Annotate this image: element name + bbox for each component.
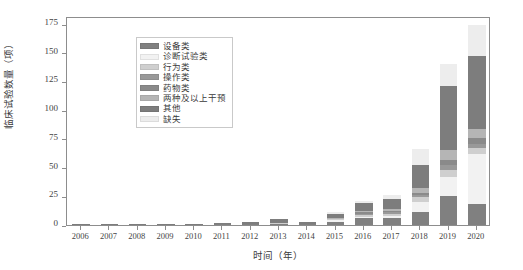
- y-tick-label: 100: [45, 104, 59, 113]
- bar-segment[interactable]: [214, 224, 232, 225]
- x-tick-mark: [193, 226, 194, 230]
- y-tick-label: 75: [49, 133, 58, 142]
- legend-item[interactable]: 操作类: [140, 72, 226, 82]
- bar-segment[interactable]: [412, 165, 430, 188]
- bar-segment[interactable]: [440, 64, 458, 86]
- legend-swatch-icon: [140, 54, 159, 60]
- y-axis: 0255075100125150175 临床试验数量（项）: [0, 17, 66, 226]
- bar-group[interactable]: [270, 219, 288, 225]
- bar-group[interactable]: [468, 25, 486, 225]
- x-axis: 2006200720082009201020112012201320142015…: [66, 226, 490, 266]
- legend: 设备类诊断试验类行为类操作类药物类两种及以上干预其他缺失: [136, 37, 233, 128]
- x-tick-mark: [80, 226, 81, 230]
- bar-group[interactable]: [299, 222, 317, 225]
- bar-segment[interactable]: [157, 224, 175, 225]
- y-tick-label: 25: [49, 190, 58, 199]
- x-tick-mark: [250, 226, 251, 230]
- bar-group[interactable]: [72, 224, 90, 225]
- bar-segment[interactable]: [468, 204, 486, 225]
- x-tick-label: 2015: [326, 232, 343, 241]
- y-tick-label: 175: [45, 18, 59, 27]
- x-tick-mark: [165, 226, 166, 230]
- x-tick-mark: [108, 226, 109, 230]
- x-tick-label: 2008: [128, 232, 145, 241]
- bar-segment[interactable]: [468, 25, 486, 56]
- x-tick-label: 2006: [72, 232, 89, 241]
- y-tick-label: 0: [54, 219, 59, 228]
- bar-group[interactable]: [440, 64, 458, 225]
- bar-group[interactable]: [327, 212, 345, 225]
- bar-segment[interactable]: [440, 86, 458, 150]
- x-tick-label: 2018: [411, 232, 428, 241]
- legend-item[interactable]: 药物类: [140, 83, 226, 93]
- x-tick-mark: [278, 226, 279, 230]
- bar-group[interactable]: [242, 222, 260, 225]
- legend-item-label: 操作类: [163, 73, 190, 82]
- bar-group[interactable]: [157, 224, 175, 225]
- bar-group[interactable]: [214, 223, 232, 225]
- bar-segment[interactable]: [440, 196, 458, 225]
- legend-swatch-icon: [140, 74, 159, 80]
- x-tick-label: 2013: [270, 232, 287, 241]
- x-tick-label: 2011: [213, 232, 230, 241]
- legend-item-label: 行为类: [163, 63, 190, 72]
- bar-segment[interactable]: [101, 224, 119, 225]
- bar-segment[interactable]: [468, 56, 486, 128]
- x-tick-label: 2020: [467, 232, 484, 241]
- bar-segment[interactable]: [72, 224, 90, 225]
- y-tick-label: 125: [45, 75, 59, 84]
- legend-item-label: 其他: [163, 104, 181, 113]
- bar-segment[interactable]: [440, 177, 458, 197]
- x-tick-label: 2009: [156, 232, 173, 241]
- x-tick-label: 2012: [241, 232, 258, 241]
- x-tick-mark: [419, 226, 420, 230]
- legend-swatch-icon: [140, 106, 159, 112]
- bar-segment[interactable]: [129, 224, 147, 225]
- x-tick-label: 2014: [298, 232, 315, 241]
- legend-item[interactable]: 两种及以上干预: [140, 93, 226, 103]
- bar-group[interactable]: [383, 195, 401, 225]
- bar-segment[interactable]: [412, 212, 430, 225]
- legend-item[interactable]: 设备类: [140, 41, 226, 51]
- x-tick-mark: [448, 226, 449, 230]
- legend-item[interactable]: 诊断试验类: [140, 51, 226, 61]
- bar-segment[interactable]: [440, 150, 458, 159]
- bars-layer: [67, 18, 489, 225]
- bar-group[interactable]: [412, 149, 430, 225]
- bar-segment[interactable]: [440, 170, 458, 177]
- y-tick-label: 150: [45, 47, 59, 56]
- bar-segment[interactable]: [355, 218, 373, 225]
- legend-swatch-icon: [140, 85, 159, 91]
- bar-segment[interactable]: [242, 224, 260, 225]
- legend-swatch-icon: [140, 64, 159, 70]
- legend-item-label: 诊断试验类: [163, 52, 208, 61]
- bar-group[interactable]: [185, 224, 203, 225]
- x-tick-mark: [306, 226, 307, 230]
- x-tick-label: 2007: [100, 232, 117, 241]
- x-tick-label: 2016: [354, 232, 371, 241]
- bar-segment[interactable]: [327, 222, 345, 225]
- bar-segment[interactable]: [270, 224, 288, 225]
- legend-item[interactable]: 其他: [140, 103, 226, 113]
- bar-segment[interactable]: [468, 154, 486, 205]
- bar-segment[interactable]: [383, 218, 401, 225]
- y-tick-label: 50: [49, 162, 58, 171]
- bar-group[interactable]: [129, 224, 147, 225]
- bar-segment[interactable]: [468, 129, 486, 138]
- bar-segment[interactable]: [355, 203, 373, 211]
- bar-segment[interactable]: [412, 149, 430, 165]
- bar-segment[interactable]: [383, 199, 401, 209]
- legend-item[interactable]: 缺失: [140, 114, 226, 124]
- x-tick-label: 2010: [185, 232, 202, 241]
- legend-item[interactable]: 行为类: [140, 62, 226, 72]
- x-axis-title: 时间（年）: [66, 248, 490, 262]
- bar-group[interactable]: [355, 201, 373, 225]
- bar-segment[interactable]: [412, 202, 430, 212]
- bar-segment[interactable]: [299, 224, 317, 225]
- bar-group[interactable]: [101, 224, 119, 225]
- legend-item-label: 设备类: [163, 42, 190, 51]
- legend-item-label: 两种及以上干预: [163, 94, 226, 103]
- bar-segment[interactable]: [185, 224, 203, 225]
- x-tick-mark: [221, 226, 222, 230]
- x-tick-mark: [476, 226, 477, 230]
